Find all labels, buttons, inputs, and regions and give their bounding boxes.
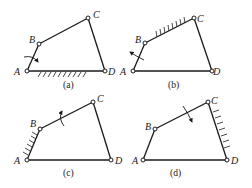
rotation-arrow-icon — [130, 52, 144, 60]
panel-c: A B C D (c) — [13, 93, 123, 179]
joint-d — [109, 158, 113, 162]
link-cd — [93, 102, 111, 160]
label-a: A — [13, 155, 21, 166]
joint-a — [25, 158, 29, 162]
caption-d: (d) — [170, 168, 181, 179]
ground-hatch-bc — [156, 17, 185, 37]
label-b: B — [30, 118, 36, 129]
link-ab — [143, 129, 155, 160]
joint-b — [153, 127, 157, 131]
label-a: A — [119, 66, 127, 77]
label-d: D — [114, 155, 123, 166]
label-c: C — [93, 9, 100, 20]
caption-c: (c) — [63, 168, 74, 179]
label-b: B — [145, 121, 151, 132]
joint-a — [25, 69, 29, 73]
link-ab — [27, 129, 40, 160]
joint-b — [143, 41, 147, 45]
label-a: A — [13, 66, 21, 77]
panel-b: A B C D (b) — [119, 13, 221, 91]
joint-b — [37, 42, 41, 46]
label-d: D — [230, 155, 239, 166]
link-cd — [194, 18, 212, 71]
joint-d — [225, 158, 229, 162]
link-bc — [145, 18, 194, 43]
joint-b — [38, 127, 42, 131]
label-d: D — [107, 66, 116, 77]
rotation-arrow-icon — [60, 111, 64, 126]
joint-c — [91, 100, 95, 104]
panel-d: A B C D (d) — [131, 95, 239, 179]
joint-c — [86, 16, 90, 20]
label-c: C — [97, 93, 104, 104]
label-d: D — [212, 66, 221, 77]
label-b: B — [135, 34, 141, 45]
linkage-diagram-figure: A B C D (a) A B C D (b) — [0, 0, 252, 188]
label-c: C — [197, 13, 204, 24]
joint-a — [131, 69, 135, 73]
caption-a: (a) — [63, 80, 74, 91]
link-bc — [155, 102, 208, 129]
link-bc — [40, 102, 93, 129]
joint-a — [141, 158, 145, 162]
caption-b: (b) — [168, 80, 179, 91]
label-b: B — [29, 34, 35, 45]
label-a: A — [131, 155, 139, 166]
label-c: C — [211, 95, 218, 106]
link-cd — [88, 18, 105, 71]
joint-c — [192, 16, 196, 20]
panel-a: A B C D (a) — [13, 9, 116, 91]
link-bc — [39, 18, 88, 44]
joint-d — [103, 69, 107, 73]
ground-hatch-ad — [38, 72, 86, 77]
joint-c — [206, 100, 210, 104]
